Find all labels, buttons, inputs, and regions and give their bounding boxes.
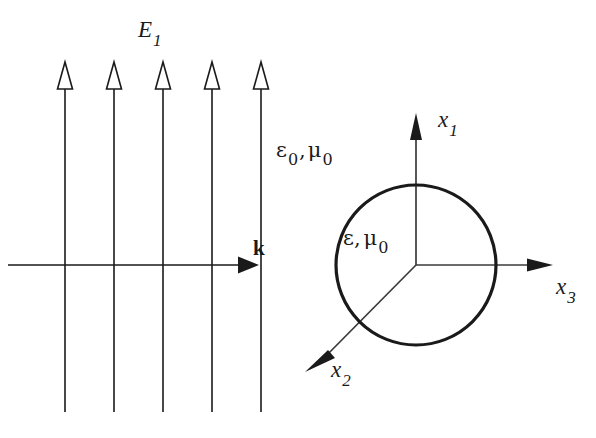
incident-field-subscript: 1 (153, 31, 162, 50)
field-line-4 (205, 62, 220, 412)
axis-x1-label: x1 (438, 108, 457, 131)
diagram-canvas (0, 0, 596, 438)
exterior-permeability-symbol: μ (308, 138, 322, 162)
exterior-permeability-subscript: 0 (322, 150, 332, 169)
exterior-permittivity-symbol: ε (276, 138, 287, 162)
exterior-permittivity-subscript: 0 (288, 150, 298, 169)
exterior-medium-label: ε0,μ0 (276, 140, 332, 161)
interior-permeability-symbol: μ (361, 226, 378, 250)
exterior-medium-separator: , (297, 138, 308, 162)
figure-root: E1 ε0,μ0 ε,μ0 k x1 x3 x2 (0, 0, 596, 438)
incident-field-label: E1 (138, 18, 161, 41)
incident-field-symbol: E (138, 17, 152, 42)
incident-field-lines (58, 62, 269, 412)
interior-medium-label: ε,μ0 (343, 228, 387, 249)
wave-vector-label: k (253, 238, 265, 259)
axis-x1-symbol: x (438, 107, 448, 132)
axis-x3 (416, 259, 553, 272)
field-line-3 (156, 62, 171, 412)
axis-x1-subscript: 1 (449, 121, 458, 140)
axis-x2-subscript: 2 (342, 371, 351, 390)
field-line-2 (107, 62, 122, 412)
axis-x2-symbol: x (331, 357, 341, 382)
axis-x3-subscript: 3 (567, 288, 576, 307)
axis-x3-label: x3 (556, 275, 575, 298)
field-line-1 (58, 62, 73, 412)
axis-x1 (410, 113, 422, 265)
wave-vector-arrow (8, 257, 259, 274)
interior-permittivity-symbol: ε (343, 226, 354, 250)
axis-x3-symbol: x (556, 274, 566, 299)
interior-permeability-subscript: 0 (378, 238, 388, 257)
interior-medium-separator: , (354, 226, 361, 250)
axis-x2-label: x2 (331, 358, 350, 381)
axis-x2 (305, 265, 416, 372)
